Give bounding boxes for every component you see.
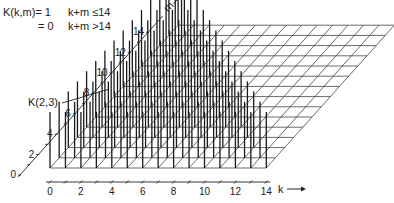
- m-axis-tick-label: 4: [47, 128, 53, 139]
- definition-line2-lhs: = 0: [38, 20, 54, 32]
- k-axis-tick-label: 2: [78, 186, 84, 197]
- m-axis-tick-label: 12: [115, 47, 127, 58]
- m-axis-tick-label: 0: [10, 169, 16, 180]
- m-axis-tick-label: 6: [65, 108, 71, 119]
- m-axis-label: m: [161, 0, 176, 14]
- k-axis: 02468101214: [46, 181, 272, 198]
- k-axis-tick-label: 6: [140, 186, 146, 197]
- k-axis-tick-label: 12: [230, 186, 242, 197]
- k-axis-tick-label: 10: [199, 186, 211, 197]
- k-axis-tick-label: 4: [109, 186, 115, 197]
- annotation-label: K(2,3): [28, 96, 58, 108]
- k-m-grid-diagram: 02468101214 02468101214m K(k,m)= 1 k+m ≤…: [0, 0, 394, 203]
- m-axis-tick-label: 10: [96, 67, 108, 78]
- m-axis-tick-label: 2: [29, 149, 35, 160]
- m-axis-tick-label: 14: [133, 26, 145, 37]
- k-axis-arrow-icon: [301, 187, 306, 192]
- k-axis-tick-label: 14: [261, 186, 273, 197]
- k-axis-tick-label: 8: [171, 186, 177, 197]
- definition-line1-lhs: K(k,m)= 1: [3, 6, 51, 18]
- definition-line2-cond: k+m >14: [68, 20, 111, 32]
- k-axis-label: k: [278, 183, 284, 195]
- k-axis-tick-label: 0: [47, 186, 53, 197]
- definition-line1-cond: k+m ≤14: [68, 6, 110, 18]
